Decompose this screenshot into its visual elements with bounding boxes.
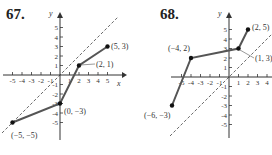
graph-68: 68. -5-4-3-2-1 1234 54321 -1-2-3-4-5 y (… <box>136 0 272 155</box>
svg-text:-4: -4 <box>188 79 194 87</box>
svg-text:5: 5 <box>55 24 59 32</box>
svg-text:4: 4 <box>265 79 269 87</box>
svg-text:-2: -2 <box>52 91 58 99</box>
y-axis-label: y <box>48 9 53 18</box>
svg-text:4: 4 <box>96 77 100 85</box>
svg-text:-4: -4 <box>19 77 25 85</box>
svg-text:3: 3 <box>87 77 91 85</box>
svg-text:-2: -2 <box>207 79 213 87</box>
svg-text:-5: -5 <box>221 121 227 129</box>
y-axis-arrow-icon <box>57 12 63 18</box>
point-label: (−4, 2) <box>168 44 190 53</box>
svg-text:4: 4 <box>55 34 59 42</box>
graph-67: 67. -5-4-3-2-1 12345 54321 -1-2-3-4-5 x … <box>0 0 136 155</box>
svg-text:1: 1 <box>55 62 59 70</box>
x-axis-label: x <box>116 79 121 88</box>
svg-text:-4: -4 <box>221 112 227 120</box>
point-label: (5, 3) <box>111 42 129 51</box>
svg-text:-3: -3 <box>221 102 227 110</box>
point-label: (2, 1) <box>96 60 114 69</box>
svg-text:1: 1 <box>224 64 228 72</box>
piecewise-graph <box>172 30 248 106</box>
svg-text:-5: -5 <box>10 77 16 85</box>
y-axis-label: y <box>217 9 222 18</box>
svg-text:-2: -2 <box>221 93 227 101</box>
graph-67-plot: -5-4-3-2-1 12345 54321 -1-2-3-4-5 x y (−… <box>0 0 136 155</box>
svg-text:2: 2 <box>55 53 59 61</box>
svg-text:1: 1 <box>237 79 241 87</box>
point-label: (0, −3) <box>64 107 86 116</box>
svg-text:5: 5 <box>224 26 228 34</box>
svg-text:4: 4 <box>224 36 228 44</box>
point-label: (1, 3) <box>255 54 272 63</box>
y-axis-arrow-icon <box>226 12 232 18</box>
point-label: (2, 5) <box>252 23 270 32</box>
svg-text:-1: -1 <box>221 83 227 91</box>
svg-text:-3: -3 <box>198 79 204 87</box>
svg-text:5: 5 <box>106 77 110 85</box>
svg-text:2: 2 <box>246 79 250 87</box>
point-label: (−5, −5) <box>11 131 38 140</box>
point-label: (−6, −3) <box>144 111 171 120</box>
svg-text:3: 3 <box>55 43 59 51</box>
svg-text:-5: -5 <box>52 119 58 127</box>
svg-text:3: 3 <box>256 79 260 87</box>
svg-text:-3: -3 <box>29 77 35 85</box>
svg-text:-1: -1 <box>52 81 58 89</box>
graph-68-plot: -5-4-3-2-1 1234 54321 -1-2-3-4-5 y (−6, … <box>136 0 272 155</box>
svg-text:-2: -2 <box>38 77 44 85</box>
svg-text:2: 2 <box>224 55 228 63</box>
svg-text:-4: -4 <box>52 110 58 118</box>
x-axis-arrow-icon <box>122 72 127 78</box>
svg-text:2: 2 <box>77 77 81 85</box>
